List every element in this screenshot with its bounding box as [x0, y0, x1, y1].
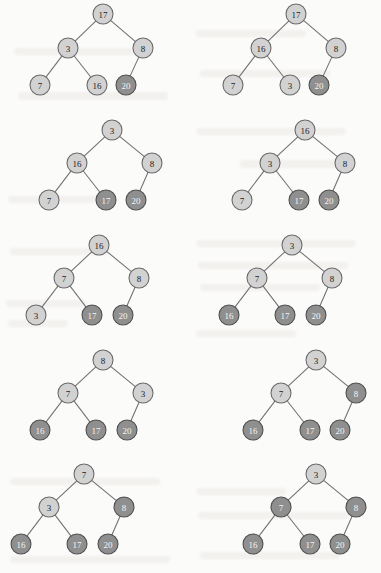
- tree-node[interactable]: 20: [330, 420, 350, 440]
- tree-node-label: 7: [279, 503, 284, 513]
- tree-node[interactable]: 8: [133, 38, 153, 58]
- tree-node[interactable]: 3: [133, 383, 153, 403]
- tree-node[interactable]: 8: [346, 383, 366, 403]
- tree-node[interactable]: 17: [289, 190, 309, 210]
- tree-node-label: 7: [66, 389, 71, 399]
- tree-node[interactable]: 16: [243, 534, 263, 554]
- tree-node[interactable]: 3: [280, 75, 300, 95]
- tree-node-label: 16: [95, 241, 105, 251]
- tree-node[interactable]: 3: [39, 497, 59, 517]
- tree-node[interactable]: 16: [295, 120, 315, 140]
- tree-node[interactable]: 7: [223, 75, 243, 95]
- tree-node[interactable]: 8: [335, 153, 355, 173]
- tree-node[interactable]: 7: [39, 190, 59, 210]
- tree-node[interactable]: 20: [116, 75, 136, 95]
- tree-node[interactable]: 17: [93, 4, 113, 24]
- tree-node[interactable]: 7: [54, 268, 74, 288]
- tree-node[interactable]: 7: [74, 464, 94, 484]
- tree-node-label: 8: [141, 44, 146, 54]
- tree-edge: [268, 21, 289, 42]
- tree-node[interactable]: 3: [26, 305, 46, 325]
- tree-node[interactable]: 20: [319, 190, 339, 210]
- tree-node-label: 20: [123, 426, 133, 436]
- tree-node[interactable]: 7: [247, 268, 267, 288]
- tree-edge: [84, 137, 105, 157]
- tree-node-label: 3: [66, 44, 71, 54]
- tree-node[interactable]: 20: [98, 534, 118, 554]
- tree-node-label: 16: [93, 81, 103, 91]
- tree-node[interactable]: 17: [67, 534, 87, 554]
- tree-node[interactable]: 17: [300, 420, 320, 440]
- tree-edge: [267, 55, 284, 77]
- tree-node-label: 17: [306, 426, 316, 436]
- tree-node[interactable]: 16: [87, 75, 107, 95]
- tree-node-label: 20: [336, 426, 346, 436]
- tree-node[interactable]: 3: [102, 120, 122, 140]
- tree-node[interactable]: 7: [58, 383, 78, 403]
- tree-node[interactable]: 8: [322, 268, 342, 288]
- tree-node-label: 16: [73, 159, 83, 169]
- tree-node-label: 16: [249, 540, 259, 550]
- tree-node[interactable]: 20: [306, 305, 326, 325]
- tree-node[interactable]: 17: [82, 305, 102, 325]
- tree-edge: [74, 401, 91, 423]
- tree-node[interactable]: 8: [93, 350, 113, 370]
- tree-node[interactable]: 17: [300, 534, 320, 554]
- binary-tree-tree-4: 163871720: [232, 120, 355, 210]
- tree-node[interactable]: 17: [286, 4, 306, 24]
- tree-node-label: 8: [354, 389, 359, 399]
- tree-node[interactable]: 17: [96, 190, 116, 210]
- tree-node[interactable]: 8: [326, 38, 346, 58]
- tree-edge: [323, 57, 332, 77]
- tree-edge: [277, 137, 298, 157]
- tree-node[interactable]: 3: [58, 38, 78, 58]
- tree-node[interactable]: 20: [330, 534, 350, 554]
- tree-node[interactable]: 8: [142, 153, 162, 173]
- tree-node[interactable]: 7: [30, 75, 50, 95]
- tree-node-label: 20: [312, 311, 322, 321]
- tree-node-label: 3: [268, 159, 273, 169]
- tree-node-label: 7: [82, 470, 87, 480]
- tree-node[interactable]: 3: [306, 350, 326, 370]
- tree-node[interactable]: 7: [232, 190, 252, 210]
- tree-edge: [56, 481, 77, 501]
- tree-node-label: 17: [99, 10, 109, 20]
- tree-node[interactable]: 16: [251, 38, 271, 58]
- tree-node[interactable]: 16: [11, 534, 31, 554]
- tree-node[interactable]: 16: [67, 153, 87, 173]
- tree-node[interactable]: 7: [271, 497, 291, 517]
- tree-node-label: 8: [150, 159, 155, 169]
- tree-node-label: 8: [122, 503, 127, 513]
- tree-edge: [288, 367, 309, 387]
- tree-edge: [323, 480, 348, 501]
- tree-node-label: 7: [240, 196, 245, 206]
- tree-node[interactable]: 8: [129, 268, 149, 288]
- tree-node[interactable]: 8: [114, 497, 134, 517]
- tree-node[interactable]: 3: [306, 464, 326, 484]
- tree-node-label: 16: [301, 126, 311, 136]
- tree-node-label: 3: [314, 470, 319, 480]
- tree-node[interactable]: 20: [126, 190, 146, 210]
- tree-node[interactable]: 7: [271, 383, 291, 403]
- tree-node[interactable]: 3: [282, 235, 302, 255]
- tree-node[interactable]: 16: [243, 420, 263, 440]
- tree-node-label: 17: [292, 10, 302, 20]
- tree-node[interactable]: 3: [260, 153, 280, 173]
- tree-edge: [106, 251, 131, 272]
- tree-node-label: 3: [34, 311, 39, 321]
- tree-edge: [46, 56, 63, 78]
- tree-edge: [140, 172, 148, 192]
- tree-node[interactable]: 20: [309, 75, 329, 95]
- tree-node[interactable]: 16: [89, 235, 109, 255]
- tree-node[interactable]: 20: [117, 420, 137, 440]
- tree-node-label: 3: [288, 81, 293, 91]
- tree-node[interactable]: 20: [113, 305, 133, 325]
- tree-edge: [112, 516, 120, 536]
- tree-node[interactable]: 17: [86, 420, 106, 440]
- tree-node[interactable]: 17: [275, 305, 295, 325]
- tree-node[interactable]: 16: [30, 420, 50, 440]
- binary-tree-tree-9: 738161720: [11, 464, 134, 554]
- tree-node-label: 7: [62, 274, 67, 284]
- tree-node[interactable]: 16: [219, 305, 239, 325]
- tree-node[interactable]: 8: [346, 497, 366, 517]
